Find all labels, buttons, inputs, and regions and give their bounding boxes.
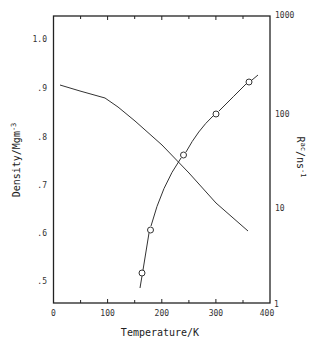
density-line bbox=[60, 85, 248, 231]
y-tick-label: .7 bbox=[37, 181, 47, 190]
y-right-tick-label: 100 bbox=[275, 110, 290, 119]
x-axis-ticks bbox=[81, 16, 243, 303]
y-tick-label: .5 bbox=[37, 277, 47, 286]
y-axis-title-left: Density/Mgm-3 bbox=[10, 123, 22, 198]
y-tick-label: .8 bbox=[37, 133, 47, 142]
x-tick-label: 0 bbox=[51, 309, 56, 318]
x-axis-title: Temperature/K bbox=[121, 327, 199, 338]
rac-markers bbox=[139, 79, 252, 276]
y-right-title-sup2: -1 bbox=[299, 169, 307, 177]
y-tick-label: 1.0 bbox=[33, 35, 48, 44]
y-right-tick-label: 1 bbox=[274, 300, 279, 309]
svg-text:Rac/ns-1: Rac/ns-1 bbox=[295, 137, 307, 178]
y-right-title-rest: /ns bbox=[295, 151, 306, 169]
y-tick-labels-left: .5 .6 .7 .8 .9 1.0 bbox=[33, 35, 48, 286]
data-point-marker bbox=[139, 270, 145, 276]
data-point-marker bbox=[181, 152, 187, 158]
y-axis-title-sup: -3 bbox=[10, 123, 18, 131]
x-tick-label: 200 bbox=[155, 309, 170, 318]
y-right-tick-label: 1000 bbox=[275, 11, 294, 20]
data-point-marker bbox=[213, 111, 219, 117]
y-tick-labels-right: 1 10 100 1000 bbox=[274, 11, 294, 309]
y-right-title-sup: ac bbox=[299, 143, 307, 151]
y-tick-label: .9 bbox=[37, 84, 47, 93]
y-axis-title-right: Rac/ns-1 bbox=[295, 137, 307, 178]
x-tick-label: 300 bbox=[209, 309, 224, 318]
x-tick-label: 400 bbox=[260, 309, 275, 318]
y-tick-label: .6 bbox=[37, 229, 47, 238]
y-axis-title-text: Density/Mgm bbox=[11, 131, 22, 197]
chart: 0 100 200 300 400 .5 .6 .7 .8 .9 1.0 1 1… bbox=[0, 0, 321, 349]
data-point-marker bbox=[148, 227, 154, 233]
x-tick-labels: 0 100 200 300 400 bbox=[51, 309, 274, 318]
x-tick-label: 100 bbox=[100, 309, 115, 318]
rac-curve bbox=[140, 75, 258, 288]
plot-frame bbox=[54, 16, 271, 303]
y-right-tick-label: 10 bbox=[275, 204, 285, 213]
svg-text:Density/Mgm-3: Density/Mgm-3 bbox=[10, 123, 22, 198]
data-point-marker bbox=[246, 79, 252, 85]
